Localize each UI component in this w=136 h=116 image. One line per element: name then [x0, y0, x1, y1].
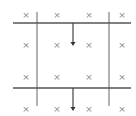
field-into-page-icon: ×: [21, 72, 31, 82]
field-into-page-icon: ×: [84, 72, 94, 82]
field-into-page-icon: ×: [52, 40, 62, 50]
field-into-page-icon: ×: [52, 104, 62, 114]
arrow-bottom-icon: [71, 88, 76, 111]
field-into-page-icon: ×: [21, 10, 31, 20]
field-into-page-icon: ×: [84, 10, 94, 20]
field-into-page-icon: ×: [117, 40, 127, 50]
field-into-page-icon: ×: [117, 104, 127, 114]
arrow-top-icon: [71, 23, 76, 46]
field-into-page-icon: ×: [21, 40, 31, 50]
field-into-page-icon: ×: [117, 10, 127, 20]
magnetic-field-diagram: ××××××××××××××××: [0, 0, 136, 116]
field-into-page-icon: ×: [84, 104, 94, 114]
field-into-page-icon: ×: [84, 40, 94, 50]
field-into-page-icon: ×: [21, 104, 31, 114]
field-into-page-icon: ×: [52, 72, 62, 82]
field-into-page-icon: ×: [117, 72, 127, 82]
field-into-page-icon: ×: [52, 10, 62, 20]
